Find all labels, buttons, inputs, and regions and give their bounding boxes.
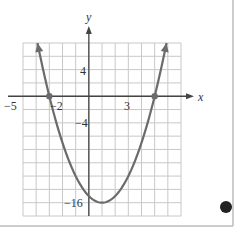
y-tick-label-neg4: −4	[75, 116, 88, 130]
parabola-graph: y x −5 −2 3 4 −4 −16	[0, 0, 238, 235]
x-tick-label-3: 3	[124, 99, 130, 113]
x-axis-label: x	[197, 90, 204, 104]
y-tick-label-4: 4	[80, 64, 86, 78]
y-tick-label-neg16: −16	[64, 196, 83, 210]
y-axis-arrow-icon	[86, 26, 92, 34]
x-axis-arrow-icon	[186, 93, 194, 99]
x-tick-label-neg5: −5	[4, 99, 17, 113]
y-axis-label: y	[85, 10, 92, 24]
intercept-point	[151, 93, 157, 99]
corner-dot-marker	[220, 201, 232, 213]
grid	[23, 43, 181, 216]
x-tick-label-neg2: −2	[50, 99, 63, 113]
